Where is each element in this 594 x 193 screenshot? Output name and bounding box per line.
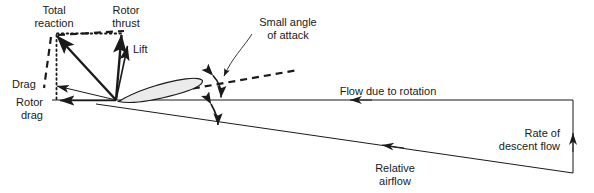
label-drag: Drag <box>12 78 36 90</box>
relative-airflow-arrowhead <box>382 145 404 148</box>
dashed-left-construction-line <box>44 37 51 88</box>
label-rotor-thrust-line1: Rotor <box>113 4 140 16</box>
relative-airflow-line <box>96 104 573 173</box>
autorotation-diagram: Total reaction Rotor thrust Lift Drag Ro… <box>0 0 594 193</box>
label-relative-airflow-line2: airflow <box>379 175 411 187</box>
label-total-reaction-line1: Total <box>42 4 65 16</box>
label-flow-due-to-rotation: Flow due to rotation <box>340 85 437 97</box>
small-angle-of-attack-leader-line <box>224 34 252 76</box>
label-rate-of-descent-line1: Rate of <box>525 127 561 139</box>
total-reaction-vector <box>57 36 116 100</box>
angle-of-attack-arc <box>213 76 221 98</box>
label-small-angle-line2: of attack <box>267 29 309 41</box>
label-relative-airflow-line1: Relative <box>375 162 415 174</box>
label-total-reaction-line2: reaction <box>34 17 73 29</box>
label-small-angle-line1: Small angle <box>259 16 316 28</box>
label-rate-of-descent-line2: descent flow <box>499 140 560 152</box>
diagram-canvas: Total reaction Rotor thrust Lift Drag Ro… <box>0 0 594 193</box>
drag-vector <box>57 86 116 100</box>
label-rotor-drag-line2: drag <box>21 109 43 121</box>
label-lift: Lift <box>133 43 148 55</box>
label-rotor-drag-line1: Rotor <box>16 96 43 108</box>
rotor-blade-airfoil <box>119 78 203 102</box>
label-rotor-thrust-line2: thrust <box>112 17 140 29</box>
